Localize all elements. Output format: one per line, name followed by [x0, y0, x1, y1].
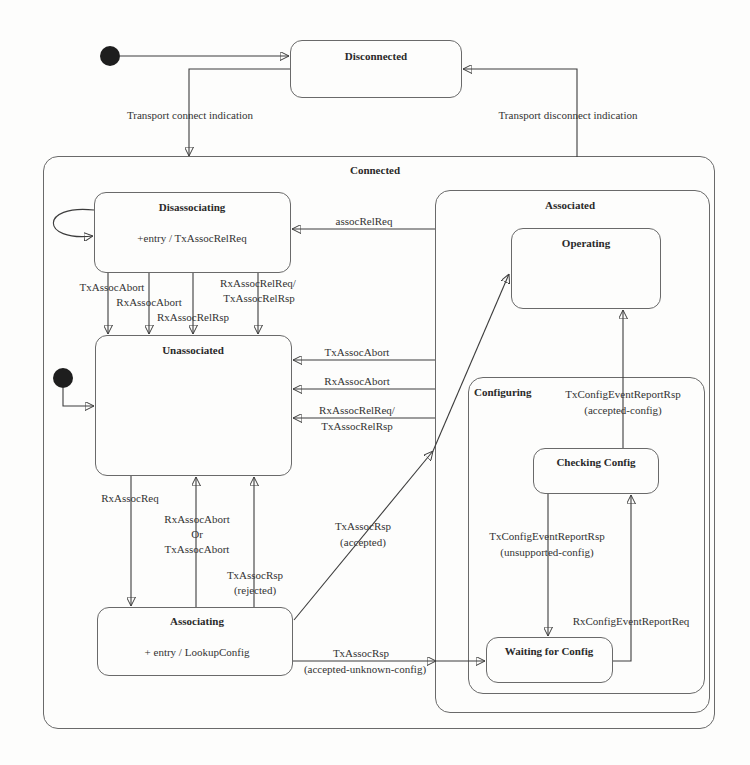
label-unknown-config-line1: TxAssocRsp — [333, 647, 389, 660]
label-accepted-config-line1: TxConfigEventReportRsp — [565, 388, 681, 401]
initial-state-icon — [100, 46, 120, 66]
label-rejected-line1: TxAssocRsp — [227, 569, 283, 582]
label-abort-line1: RxAssocAbort — [164, 513, 229, 526]
label-unknown-config-line2: (accepted-unknown-config) — [304, 663, 426, 676]
arrow-initial-to-unassociated — [63, 388, 94, 406]
label-rejected-line2: (rejected) — [234, 584, 276, 597]
label-abort-line2: Or — [191, 528, 203, 541]
waiting-for-config-title: Waiting for Config — [505, 645, 593, 658]
label-accepted-line2: (accepted) — [340, 536, 386, 549]
label-unsupported-config-line1: TxConfigEventReportRsp — [489, 530, 605, 543]
arrow-rxconfigeventreportreq — [613, 495, 631, 661]
label-transport-connect: Transport connect indication — [127, 109, 253, 122]
state-machine-diagram: Disconnected Connected Disassociating +e… — [0, 0, 750, 765]
associated-title: Associated — [545, 199, 595, 212]
initial-state-icon — [53, 368, 73, 388]
label-assoc-rxassocabort: RxAssocAbort — [324, 375, 389, 388]
disassociating-title: Disassociating — [159, 201, 226, 214]
label-rxassocreq: RxAssocReq — [101, 492, 158, 505]
label-assoc-txassocrelrsp: TxAssocRelRsp — [321, 420, 393, 433]
label-accepted-config-line2: (accepted-config) — [584, 404, 662, 417]
connected-title: Connected — [350, 164, 400, 177]
arrow-disassociating-self-loop — [53, 209, 94, 236]
unassociated-title: Unassociated — [162, 344, 224, 357]
label-assocrelreq: assocRelReq — [336, 215, 393, 228]
label-unsupported-config-line2: (unsupported-config) — [500, 546, 593, 559]
label-dis-txassocrelrsp: TxAssocRelRsp — [223, 292, 295, 305]
label-transport-disconnect: Transport disconnect indication — [499, 109, 638, 122]
arrow-accepted-to-operating — [433, 274, 509, 451]
checking-config-title: Checking Config — [556, 456, 635, 469]
associating-title: Associating — [170, 615, 224, 628]
label-rxconfigeventreportreq: RxConfigEventReportReq — [573, 615, 690, 628]
label-accepted-line1: TxAssocRsp — [335, 520, 391, 533]
associating-entry-action: + entry / LookupConfig — [145, 646, 250, 659]
configuring-title: Configuring — [474, 386, 531, 399]
label-dis-rxassocrelreq: RxAssocRelReq/ — [220, 277, 296, 290]
label-assoc-rxassocrelreq: RxAssocRelReq/ — [319, 404, 395, 417]
label-dis-txassocabort: TxAssocAbort — [80, 281, 145, 294]
label-dis-rxassocabort: RxAssocAbort — [116, 296, 181, 309]
disassociating-entry-action: +entry / TxAssocRelReq — [137, 232, 246, 245]
disconnected-title: Disconnected — [345, 50, 407, 63]
label-abort-line3: TxAssocAbort — [165, 543, 230, 556]
operating-title: Operating — [562, 237, 610, 250]
label-dis-rxassocrelrsp: RxAssocRelRsp — [157, 311, 229, 324]
label-assoc-txassocabort: TxAssocAbort — [325, 346, 390, 359]
